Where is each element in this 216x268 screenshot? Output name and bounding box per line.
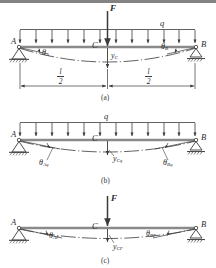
panel-b-distributed-load-label: q xyxy=(104,112,108,121)
panel-c-angle-label-a: θAF xyxy=(49,232,59,241)
panel-b xyxy=(9,123,205,161)
beam-superposition-figure xyxy=(0,0,216,268)
panel-a-support-label-a: A xyxy=(11,37,16,46)
panel-b-tangent-a xyxy=(19,141,60,150)
panel-a-dimension-left: l 2 xyxy=(57,68,64,85)
panel-c-tangent-b xyxy=(153,229,196,239)
panel-b-angle-label-a: θAq xyxy=(39,159,48,168)
panel-b-support-label-b: B xyxy=(201,133,206,142)
panel-c-deflection-label: yCF xyxy=(113,243,123,252)
panel-a xyxy=(9,11,205,89)
panel-a-angle-label-a: θA xyxy=(42,49,49,58)
panel-c-support-label-b: B xyxy=(201,220,206,229)
panel-a-distributed-load-label: q xyxy=(160,19,164,28)
panel-c-caption: (c) xyxy=(101,256,109,265)
panel-b-deflection-label: yCq xyxy=(113,155,122,164)
panel-b-support-label-a: A xyxy=(11,130,16,139)
panel-a-force-label: F xyxy=(110,4,116,13)
panel-a-deflection-label: yC xyxy=(111,52,118,61)
panel-a-midpoint-label: C xyxy=(92,41,98,50)
panel-c-support-label-a: A xyxy=(11,218,16,227)
panel-b-tangent-b xyxy=(155,141,196,150)
panel-c-angle-label-b: θBF xyxy=(146,230,156,239)
panel-a-caption: (a) xyxy=(101,93,109,102)
panel-b-distributed-load-arrows xyxy=(20,123,195,136)
panel-a-tangent-b xyxy=(167,48,196,55)
panel-a-support-label-b: B xyxy=(201,40,206,49)
panel-c xyxy=(9,196,205,243)
panel-b-midpoint-label: C xyxy=(92,134,98,143)
panel-c-midpoint-label: C xyxy=(92,222,98,231)
panel-c-force-label: F xyxy=(111,194,117,203)
panel-a-dimension-right: l 2 xyxy=(145,68,152,85)
panel-b-caption: (b) xyxy=(101,176,110,185)
panel-b-angle-label-b: θBq xyxy=(163,159,172,168)
panel-a-angle-label-b: θB xyxy=(161,43,168,52)
